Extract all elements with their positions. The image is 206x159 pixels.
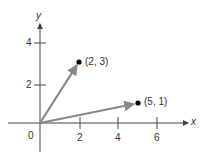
vector-5-1 [40,104,134,123]
y-axis-label: y [36,11,41,21]
x-tick-label-4: 4 [115,133,121,143]
point-2-3 [76,59,81,64]
point-label-2-3: (2, 3) [85,57,108,67]
origin-label: 0 [28,131,34,141]
y-tick-label-4: 4 [26,38,32,48]
y-tick-label-2: 2 [26,80,32,90]
point-5-1 [135,100,140,105]
x-tick-label-2: 2 [77,133,83,143]
point-label-5-1: (5, 1) [144,97,167,107]
x-axis-label: x [191,117,196,127]
x-tick-label-6: 6 [154,133,160,143]
vector-2-3 [40,65,77,123]
